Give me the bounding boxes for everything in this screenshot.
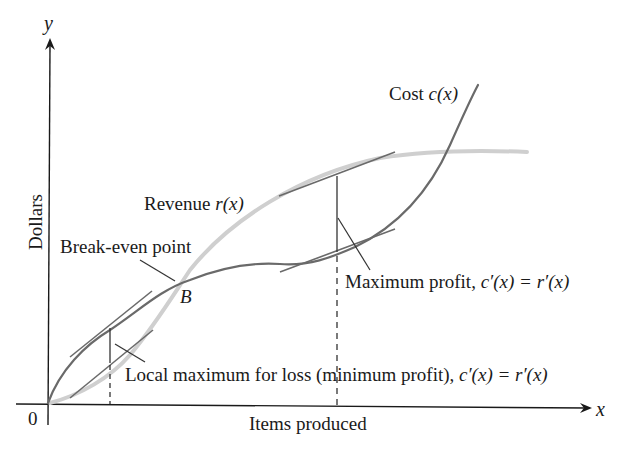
cost-tangent-local-max-loss bbox=[70, 291, 152, 357]
origin-label: 0 bbox=[28, 408, 38, 429]
break-even-leader bbox=[140, 260, 175, 281]
local-max-loss-text: Local maximum for loss (minimum profit), bbox=[125, 364, 454, 386]
break-even-label: Break-even point bbox=[60, 236, 192, 257]
cost-function: c(x) bbox=[429, 83, 459, 105]
cost-word: Cost bbox=[389, 83, 425, 104]
max-profit-text: Maximum profit, bbox=[345, 271, 476, 292]
x-axis-symbol: x bbox=[595, 398, 605, 420]
x-axis-title: Items produced bbox=[249, 413, 367, 434]
revenue-label: Revenue r(x) bbox=[144, 193, 244, 215]
y-axis-title: Dollars bbox=[25, 194, 46, 250]
local-max-loss-label: Local maximum for loss (minimum profit),… bbox=[125, 364, 548, 386]
max-profit-formula: c′(x) = r′(x) bbox=[481, 271, 570, 293]
revenue-function: r(x) bbox=[215, 193, 243, 215]
max-profit-label: Maximum profit, c′(x) = r′(x) bbox=[345, 271, 569, 293]
x-axis bbox=[16, 404, 588, 408]
cost-label: Cost c(x) bbox=[389, 83, 458, 105]
max-profit-leader bbox=[338, 218, 370, 270]
cost-revenue-diagram: y x 0 Dollars Items produced Cost c(x) R… bbox=[0, 0, 623, 456]
revenue-word: Revenue bbox=[144, 193, 210, 214]
y-axis-symbol: y bbox=[42, 12, 53, 35]
y-axis bbox=[48, 44, 50, 425]
point-b-label: B bbox=[180, 286, 192, 307]
local-max-loss-formula: c′(x) = r′(x) bbox=[459, 364, 548, 386]
local-max-leader bbox=[115, 344, 145, 362]
